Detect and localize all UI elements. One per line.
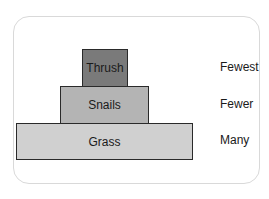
count-label-fewer: Fewer — [220, 97, 253, 111]
level-name: Grass — [88, 135, 120, 149]
count-label-fewest: Fewest — [220, 60, 259, 74]
count-label-many: Many — [220, 133, 249, 147]
level-name: Snails — [88, 98, 121, 112]
level-name: Thrush — [86, 61, 123, 75]
pyramid-level-snails: Snails — [60, 86, 149, 124]
pyramid-level-grass: Grass — [16, 123, 193, 160]
pyramid-level-thrush: Thrush — [82, 49, 128, 87]
